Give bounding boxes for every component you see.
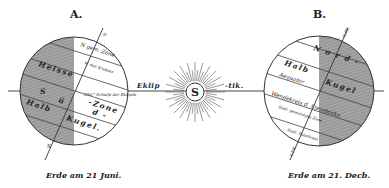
label-obliquity: 23½° Schiefe der Ekliptik [83,92,137,97]
label-s: S [40,87,47,96]
earth-a-letter: A. [69,8,82,21]
sun-label: S [191,86,199,99]
s-pole-a: S [47,143,51,149]
label-npk: N.P.K. [341,25,351,39]
earth-a: A. N S N gem. Zone. W. des Krebses 23½° … [10,8,140,180]
seasons-diagram: A. N S N gem. Zone. W. des Krebses 23½° … [0,0,389,188]
earth-b: B. N.P.K. N o r d - Halb Aequator Kugel … [250,8,389,180]
night-half-a [20,30,74,155]
pole-n-a: N [102,32,107,37]
label-spk: S.P.K. [288,145,297,157]
earth-b-caption: Erde am 21. Decb. [287,170,370,180]
earth-b-letter: B. [313,8,326,21]
ecliptic-label-right: -tik. [225,81,244,90]
ecliptic-label-left: Eklip [136,81,160,90]
earth-a-caption: Erde am 21 Juni. [45,170,122,180]
